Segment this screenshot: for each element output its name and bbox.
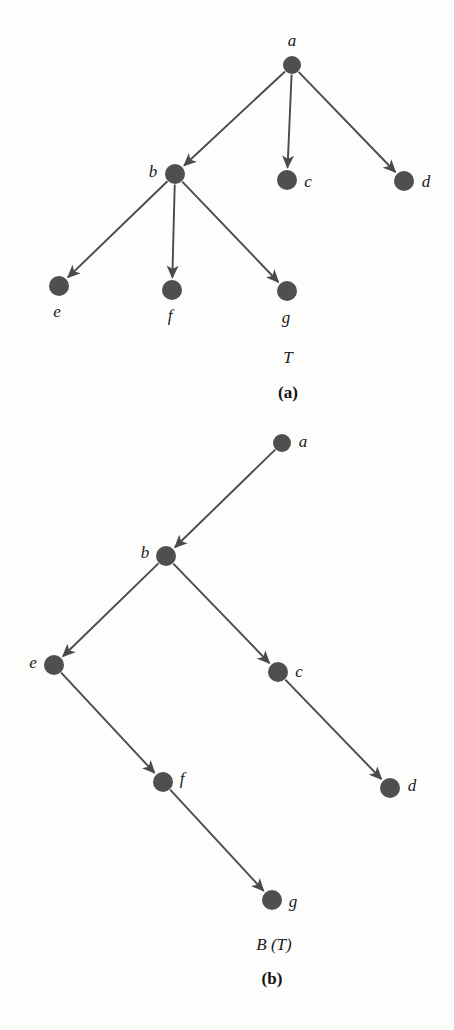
- edge-a-to-d: [299, 72, 396, 172]
- edge-b-to-f: [172, 184, 174, 277]
- node-f: [153, 772, 173, 792]
- edge-b-to-g: [182, 182, 278, 282]
- figure-tree-and-binary-representation: abcdefg T (a) abecfdg B (T) (b): [0, 0, 454, 1030]
- node-label-f: f: [180, 770, 185, 787]
- panel-a-caption-letter: (a): [278, 383, 298, 403]
- node-d: [380, 778, 400, 798]
- panel-b-graph: [0, 420, 454, 1030]
- edge-e-to-f: [61, 673, 154, 773]
- edge-a-to-b: [184, 71, 285, 165]
- node-e: [49, 276, 69, 296]
- edge-c-to-d: [285, 680, 381, 779]
- panel-b-caption-letter: (b): [262, 969, 283, 989]
- node-label-c: c: [295, 663, 303, 680]
- node-label-e: e: [29, 654, 37, 671]
- node-d: [394, 171, 414, 191]
- panel-a-graph: [0, 0, 454, 420]
- edge-f-to-g: [170, 790, 263, 891]
- node-f: [162, 280, 182, 300]
- panel-a-tree-t: abcdefg T (a): [0, 0, 454, 420]
- node-g: [262, 890, 282, 910]
- node-label-g: g: [289, 893, 298, 910]
- edge-b-to-e: [68, 181, 167, 277]
- edge-a-to-b: [175, 450, 275, 548]
- node-label-d: d: [408, 777, 417, 794]
- node-a: [273, 434, 291, 452]
- node-b: [165, 164, 185, 184]
- node-g: [277, 281, 297, 301]
- node-b: [156, 546, 176, 566]
- node-e: [44, 655, 64, 675]
- node-a: [283, 56, 301, 74]
- node-label-a: a: [299, 433, 308, 450]
- node-label-b: b: [141, 544, 150, 561]
- panel-b-binary-tree: abecfdg B (T) (b): [0, 420, 454, 1030]
- edge-b-to-c: [173, 564, 269, 663]
- node-label-c: c: [304, 173, 312, 190]
- node-label-g: g: [282, 309, 291, 326]
- node-label-f: f: [168, 307, 173, 324]
- node-label-d: d: [422, 173, 431, 190]
- node-label-e: e: [53, 303, 61, 320]
- node-c: [268, 662, 288, 682]
- node-label-b: b: [149, 163, 158, 180]
- panel-b-caption-name: B (T): [256, 935, 291, 955]
- panel-a-caption-name: T: [283, 348, 292, 368]
- node-label-a: a: [288, 32, 297, 49]
- edge-a-to-c: [288, 74, 292, 167]
- node-c: [277, 170, 297, 190]
- edge-b-to-e: [63, 563, 159, 656]
